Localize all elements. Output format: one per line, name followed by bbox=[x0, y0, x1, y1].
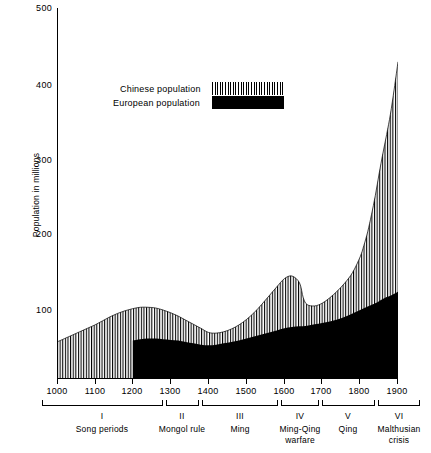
legend-label-european: European population bbox=[113, 98, 200, 108]
period-roman-6: VI bbox=[359, 411, 431, 421]
y-tick-label-200: 200 bbox=[18, 229, 52, 239]
chart-figure: Population in millions 500 400 300 200 1… bbox=[0, 0, 431, 453]
x-tick-1200 bbox=[132, 379, 133, 384]
x-tick-label-1300: 1300 bbox=[150, 386, 190, 396]
y-tick-label-300: 300 bbox=[18, 155, 52, 165]
y-tick-label-100: 100 bbox=[18, 305, 52, 315]
legend-swatch-european bbox=[212, 96, 284, 109]
period-bracket-6 bbox=[378, 400, 420, 406]
x-tick-1000 bbox=[57, 379, 58, 384]
period-bracket-1 bbox=[42, 400, 163, 406]
x-tick-1100 bbox=[95, 379, 96, 384]
legend-label-chinese: Chinese population bbox=[120, 84, 201, 94]
x-tick-1400 bbox=[208, 379, 209, 384]
period-label-6: Malthusian bbox=[359, 424, 431, 435]
period-bracket-4 bbox=[281, 400, 319, 406]
y-axis-title: Population in millions bbox=[31, 125, 41, 265]
period-roman-1: I bbox=[62, 411, 142, 421]
period-bracket-2 bbox=[166, 400, 199, 406]
x-tick-1600 bbox=[284, 379, 285, 384]
x-tick-1800 bbox=[359, 379, 360, 384]
y-tick-label-500: 500 bbox=[18, 3, 52, 13]
x-tick-label-1900: 1900 bbox=[377, 386, 417, 396]
x-tick-1700 bbox=[321, 379, 322, 384]
x-tick-label-1400: 1400 bbox=[188, 386, 228, 396]
period-label-6-line2: crisis bbox=[359, 435, 431, 446]
x-tick-1900 bbox=[397, 379, 398, 384]
x-tick-label-1800: 1800 bbox=[339, 386, 379, 396]
x-tick-label-1000: 1000 bbox=[37, 386, 77, 396]
y-tick-label-400: 400 bbox=[18, 80, 52, 90]
x-axis-line bbox=[57, 378, 398, 379]
x-tick-label-1600: 1600 bbox=[264, 386, 304, 396]
x-tick-label-1200: 1200 bbox=[112, 386, 152, 396]
x-tick-1300 bbox=[170, 379, 171, 384]
x-tick-label-1500: 1500 bbox=[226, 386, 266, 396]
x-tick-1500 bbox=[246, 379, 247, 384]
x-tick-label-1700: 1700 bbox=[301, 386, 341, 396]
period-bracket-3 bbox=[202, 400, 278, 406]
period-label-4-line2: warfare bbox=[260, 435, 340, 446]
series-canvas bbox=[57, 10, 398, 378]
legend-swatch-chinese bbox=[212, 82, 284, 95]
plot-area bbox=[57, 10, 398, 378]
period-bracket-5 bbox=[322, 400, 375, 406]
period-label-1: Song periods bbox=[62, 424, 142, 435]
x-tick-label-1100: 1100 bbox=[75, 386, 115, 396]
